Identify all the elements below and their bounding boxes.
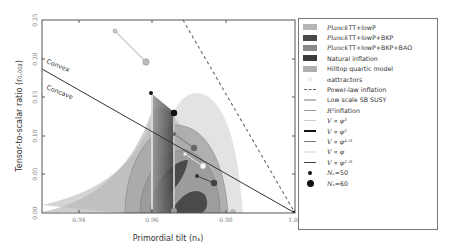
- legend-item-r2: R² inflation: [303, 105, 433, 115]
- legend-item-phi23: V ∝ φ²ᐟ³: [303, 157, 433, 167]
- y-tick-label: 0.20: [31, 52, 38, 66]
- x-axis-label: Primordial tilt (nₛ): [133, 234, 204, 243]
- phi3-line: [115, 31, 146, 62]
- x-tick-label: 0.94: [72, 216, 86, 223]
- legend-item-planck-tt-lowp: Planck TT+lowP: [303, 22, 433, 32]
- y-tick-label: 0.25: [31, 13, 38, 27]
- y-tick-label: 0.05: [31, 167, 38, 181]
- legend-item-planck-bkp-bao: Planck TT+lowP+BKP+BAO: [303, 43, 433, 53]
- phi2-ne50: [149, 91, 153, 95]
- legend-item-hilltop: Hilltop quartic model: [303, 64, 433, 74]
- legend-item-phi2: V ∝ φ²: [303, 126, 433, 136]
- phi43-ne60: [191, 145, 197, 151]
- susy-ne60: [230, 209, 236, 215]
- x-tick-label: 0.98: [219, 216, 233, 223]
- y-tick-label: 0.15: [31, 90, 38, 104]
- phi3-ne60: [143, 59, 149, 65]
- x-tick-label: 0.96: [145, 216, 159, 223]
- phi3-ne50: [113, 29, 117, 33]
- legend-item-phi43: V ∝ φ⁴ᐟ³: [303, 136, 433, 146]
- phi23-ne60: [211, 180, 217, 186]
- legend-item-phi3: V ∝ φ³: [303, 116, 433, 126]
- phi43-ne50: [172, 132, 176, 136]
- legend-item-power-law: Power-law inflation: [303, 84, 433, 94]
- legend-item-susy: Low scale SB SUSY: [303, 95, 433, 105]
- phi23-ne50: [195, 174, 199, 178]
- legend-item-phi: V ∝ φ: [303, 147, 433, 157]
- y-tick-label: 0.00: [31, 206, 38, 220]
- phi2-ne60: [171, 110, 177, 116]
- plot-area: [42, 20, 296, 215]
- y-axis-label: Tensor-to-scalar ratio (r₀.₀₀₂): [15, 60, 24, 173]
- concave-annotation: Concave: [45, 83, 74, 101]
- phi-ne60: [200, 163, 206, 169]
- legend-item-alpha-attractors: α attractors: [303, 74, 433, 84]
- phi-ne50: [183, 152, 187, 156]
- legend: Planck TT+lowP Planck TT+lowP+BKP Planck…: [298, 18, 438, 230]
- y-tick-label: 0.10: [31, 129, 38, 143]
- legend-item-ne50: Nₛ=50: [303, 167, 433, 177]
- legend-item-natural-inflation: Natural inflation: [303, 53, 433, 63]
- natural-inflation-region: [151, 93, 175, 213]
- convex-annotation: Convex: [45, 57, 71, 74]
- legend-item-ne60: Nₛ=60: [303, 178, 433, 188]
- legend-item-planck-bkp: Planck TT+lowP+BKP: [303, 32, 433, 42]
